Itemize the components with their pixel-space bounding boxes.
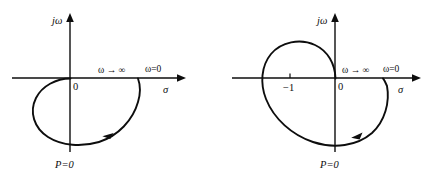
nyquist-plot-right: jω σ 0 −1 ω → ∞ ω=0 P=0: [220, 0, 441, 181]
jomega-axis-label-left: jω: [50, 15, 62, 26]
omega-zero-label-left: ω=0: [145, 64, 162, 74]
sigma-axis-left: [12, 74, 186, 82]
sigma-axis-label-left: σ: [163, 84, 169, 95]
sigma-axis-right: [232, 74, 421, 82]
sigma-axis-label-right: σ: [398, 84, 404, 95]
jomega-axis-arrow-icon: [66, 13, 74, 22]
omega-infinity-label-left: ω → ∞: [98, 65, 126, 75]
omega-infinity-label-right: ω → ∞: [342, 65, 370, 75]
poles-label-right: P=0: [319, 159, 339, 170]
minus-one-label: −1: [283, 82, 294, 93]
origin-label-right: 0: [338, 81, 343, 92]
sigma-axis-arrow-icon: [412, 74, 421, 82]
nyquist-curve-right: [262, 42, 388, 146]
nyquist-curve-left: [33, 79, 140, 145]
nyquist-plot-left: jω σ 0 ω → ∞ ω=0 P=0: [0, 0, 220, 181]
poles-label-left: P=0: [54, 159, 74, 170]
nyquist-figure: jω σ 0 ω → ∞ ω=0 P=0: [0, 0, 441, 181]
origin-label-left: 0: [73, 81, 78, 92]
sigma-axis-arrow-icon: [177, 74, 186, 82]
omega-zero-label-right: ω=0: [383, 64, 400, 74]
jomega-axis-label-right: jω: [315, 15, 327, 26]
direction-arrow-icon: [351, 133, 362, 140]
jomega-axis-arrow-icon: [331, 13, 339, 22]
direction-arrow-icon: [102, 133, 113, 139]
